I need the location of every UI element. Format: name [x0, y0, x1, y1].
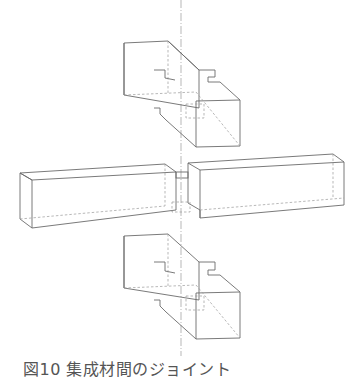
top-block — [124, 41, 240, 147]
bottom-block — [124, 234, 240, 339]
figure-caption: 図10 集成材間のジョイント — [23, 356, 231, 380]
middle-beams — [20, 154, 344, 228]
